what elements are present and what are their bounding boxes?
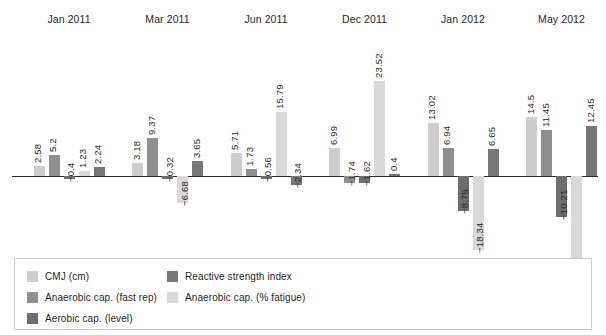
bar[interactable]: 6.65 [488,0,499,255]
bar-value-label: −0.32 [164,156,175,181]
bar-group: May 201214.511.45−10.21−27.7812.45 [519,0,605,255]
bar[interactable]: −0.56 [261,0,272,255]
bar-value-label: 23.52 [373,53,384,78]
bar-rect [329,148,340,176]
legend-label: CMJ (cm) [45,271,89,282]
bar[interactable]: 3.65 [192,0,203,255]
bar-rect [526,117,537,176]
bar-value-label: 14.5 [525,95,536,114]
chart-legend: CMJ (cm)Anaerobic cap. (fast rep)Aerobic… [14,258,592,330]
bar[interactable]: −0.32 [162,0,173,255]
bar[interactable]: 1.23 [79,0,90,255]
legend-swatch-anaerobic-fast-rep [27,292,38,303]
bar[interactable]: 23.52 [374,0,385,255]
bar-value-label: 5.2 [47,138,58,152]
legend-label: Anaerobic cap. (fast rep) [45,292,157,303]
bar-value-label: −0.4 [65,162,76,182]
bar-value-label: 11.45 [540,103,551,127]
bar[interactable]: 15.79 [276,0,287,255]
bar-rect [276,112,287,176]
legend-item[interactable]: CMJ (cm) [27,267,157,286]
bar-value-label: 6.99 [328,125,339,144]
bar-group: Mar 20113.189.37−0.32−6.683.65 [125,0,211,255]
bar[interactable]: −2.34 [291,0,302,255]
bar[interactable]: 11.45 [541,0,552,255]
bar-rect [132,163,143,176]
plot-area: Jan 20112.585.2−0.41.232.24Mar 20113.189… [0,0,606,255]
legend-item[interactable]: Anaerobic cap. (fast rep) [27,288,157,307]
bar[interactable]: 14.5 [526,0,537,255]
bar[interactable]: 6.99 [329,0,340,255]
bar-value-label: −18.34 [474,223,485,254]
bar-value-label: 2.58 [32,143,43,162]
bar-group: Jan 201213.026.94−8.75−18.346.65 [420,0,506,255]
bar-rect [94,167,105,176]
bar[interactable]: 12.45 [586,0,597,255]
legend-label: Anaerobic cap. (% fatigue) [185,292,305,303]
bar-value-label: 0.4 [388,157,399,171]
bar-rect [192,161,203,176]
bar-rect [34,166,45,176]
bar-value-label: −1.62 [361,161,372,186]
bar-rect [443,148,454,176]
bar-value-label: 6.65 [486,127,497,146]
bar-rect [389,174,400,177]
bar[interactable]: −1.62 [359,0,370,255]
bar[interactable]: 13.02 [428,0,439,255]
bar-rect [374,81,385,176]
bar-rect [49,155,60,176]
bar[interactable]: −18.34 [473,0,484,255]
grouped-bar-chart: Jan 20112.585.2−0.41.232.24Mar 20113.189… [0,0,606,335]
bar-value-label: −10.21 [558,190,569,221]
legend-swatch-cmj [27,271,38,282]
bar[interactable]: 5.71 [231,0,242,255]
bar-value-label: −8.75 [459,189,470,214]
bar[interactable]: −8.75 [458,0,469,255]
bar[interactable]: 2.24 [94,0,105,255]
bar[interactable]: 5.2 [49,0,60,255]
bar-rect [428,123,439,176]
bar[interactable]: −0.4 [64,0,75,255]
bar-group: Jun 20115.711.73−0.5615.79−2.34 [223,0,309,255]
bar[interactable]: −27.78 [571,0,582,255]
legend-item[interactable]: Reactive strength index [167,267,305,286]
legend-item[interactable]: Aerobic cap. (level) [27,309,157,328]
bar-value-label: −6.68 [179,181,190,206]
bar-value-label: 15.79 [274,84,285,109]
legend-column-2: Reactive strength indexAnaerobic cap. (%… [167,267,305,309]
bar-value-label: 13.02 [426,96,437,121]
legend-label: Reactive strength index [185,271,292,282]
bar-group: Jan 20112.585.2−0.41.232.24 [26,0,112,255]
bar-value-label: 2.24 [92,145,103,164]
bar-rect [246,169,257,176]
bar[interactable]: 1.73 [246,0,257,255]
bar-rect [541,130,552,176]
bar-value-label: −2.34 [292,163,303,188]
bar-rect [586,126,597,176]
bar-value-label: −1.74 [346,161,357,186]
bar[interactable]: 0.4 [389,0,400,255]
bar[interactable]: −1.74 [344,0,355,255]
bar-value-label: 12.45 [585,98,596,123]
bar-value-label: 9.37 [146,116,157,135]
bar-value-label: 6.94 [441,126,452,145]
legend-label: Aerobic cap. (level) [45,313,133,324]
bar[interactable]: 6.94 [443,0,454,255]
legend-column-1: CMJ (cm)Anaerobic cap. (fast rep)Aerobic… [27,267,157,330]
bar-value-label: 1.73 [244,147,255,166]
bar-rect [231,153,242,176]
bar-rect [147,138,158,176]
bar[interactable]: 3.18 [132,0,143,255]
bar-rect [79,171,90,176]
bar[interactable]: 9.37 [147,0,158,255]
bar[interactable]: −6.68 [177,0,188,255]
bar-value-label: 3.18 [131,141,142,160]
bar-value-label: 1.23 [77,149,88,168]
bar[interactable]: 2.58 [34,0,45,255]
bar-value-label: 5.71 [229,131,240,150]
bar[interactable]: −10.21 [556,0,567,255]
legend-swatch-aerobic-level [27,313,38,324]
legend-swatch-anaerobic-fatigue [167,292,178,303]
legend-item[interactable]: Anaerobic cap. (% fatigue) [167,288,305,307]
legend-swatch-reactive-strength-index [167,271,178,282]
